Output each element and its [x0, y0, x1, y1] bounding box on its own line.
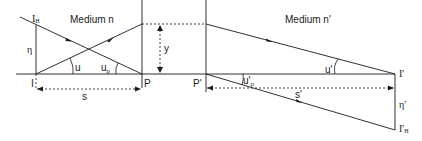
s-arrow-left-icon — [37, 87, 43, 92]
angle-u-arc — [70, 58, 73, 74]
ray-arrow-icon — [66, 38, 73, 42]
point-ih-prime-label: I'H — [399, 123, 409, 134]
s-prime-arrow-right-icon — [388, 86, 394, 91]
ray-p-prime-top-to-i-prime — [206, 24, 395, 74]
point-i-prime-label: I' — [399, 68, 404, 79]
optics-diagram: Medium n Medium n' IH η I P P' y s u up … — [0, 0, 422, 141]
s-prime-arrow-left-icon — [207, 86, 213, 91]
point-p-label: P — [144, 78, 151, 89]
medium-n-label: Medium n — [70, 14, 114, 25]
s-prime-label: s' — [295, 89, 302, 100]
angle-u-prime-label: u' — [325, 64, 333, 75]
s-arrow-right-icon — [135, 87, 141, 92]
y-arrow-top-icon — [157, 25, 163, 31]
y-label: y — [164, 43, 169, 54]
y-arrow-bottom-icon — [157, 67, 163, 73]
angle-up-arc — [116, 63, 118, 74]
point-p-prime-label: P' — [193, 78, 202, 89]
ray-ih-to-p — [20, 17, 142, 74]
eta-prime-label: η' — [399, 99, 406, 110]
angle-u-label: u — [75, 62, 81, 73]
point-i-label: I — [31, 78, 34, 89]
point-ih-label: IH — [32, 13, 40, 24]
eta-label: η — [27, 44, 32, 55]
medium-n-prime-label: Medium n' — [285, 14, 331, 25]
angle-up-label: up — [101, 62, 111, 74]
angle-u-prime-arc — [334, 59, 338, 74]
s-label: s — [82, 91, 87, 102]
angle-up-prime-label: u'p — [243, 75, 254, 87]
